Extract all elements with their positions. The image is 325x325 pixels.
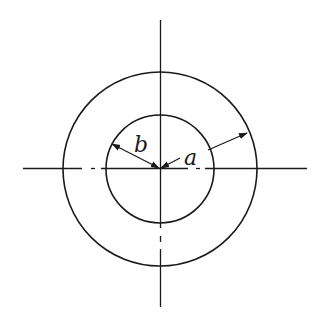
radius-a-arrow-outer — [208, 133, 247, 150]
label-a: a — [184, 145, 197, 170]
radius-a-arrow-center — [161, 158, 180, 168]
annulus-diagram: b a — [0, 0, 325, 325]
label-b: b — [134, 132, 148, 157]
